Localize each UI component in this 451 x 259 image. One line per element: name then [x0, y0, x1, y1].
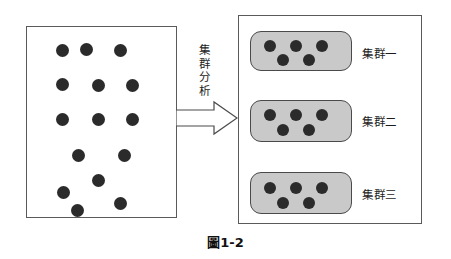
data-point [57, 186, 70, 199]
cluster-three-capsule [250, 172, 352, 214]
data-point [92, 174, 105, 187]
figure-canvas: 集 群 分 析 集群一集群二集群三 圖1-2 [0, 0, 451, 259]
cluster-two-label: 集群二 [362, 113, 397, 129]
data-point [277, 54, 289, 66]
data-point [290, 40, 302, 52]
data-point [114, 44, 127, 57]
data-point [303, 124, 315, 136]
data-point [277, 124, 289, 136]
data-point [277, 197, 289, 209]
data-point [126, 113, 139, 126]
data-point [264, 40, 276, 52]
data-point [71, 204, 84, 217]
process-label-char-2: 群 [196, 58, 212, 72]
data-point [92, 79, 105, 92]
data-point [126, 79, 139, 92]
unclustered-data-box [26, 26, 177, 218]
cluster-two-capsule [250, 100, 352, 142]
data-point [290, 109, 302, 121]
data-point [56, 113, 69, 126]
data-point [56, 78, 69, 91]
process-label-char-3: 分 [196, 71, 212, 85]
cluster-one-label: 集群一 [362, 45, 397, 61]
data-point [290, 182, 302, 194]
data-point [303, 54, 315, 66]
data-point [118, 149, 131, 162]
process-label-char-1: 集 [196, 44, 212, 58]
process-label: 集 群 分 析 [196, 44, 212, 98]
right-arrow-icon [176, 100, 238, 136]
process-label-char-4: 析 [196, 85, 212, 99]
data-point [316, 40, 328, 52]
data-point [92, 113, 105, 126]
figure-caption: 圖1-2 [0, 232, 451, 251]
data-point [316, 109, 328, 121]
data-point [264, 182, 276, 194]
data-point [316, 182, 328, 194]
cluster-three-label: 集群三 [362, 186, 397, 202]
data-point [56, 44, 69, 57]
data-point [80, 43, 93, 56]
cluster-one-capsule [250, 31, 352, 71]
data-point [264, 109, 276, 121]
data-point [303, 197, 315, 209]
data-point [114, 197, 127, 210]
data-point [72, 149, 85, 162]
